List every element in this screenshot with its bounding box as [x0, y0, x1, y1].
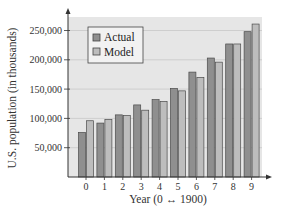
bar-model [123, 115, 130, 177]
x-axis-arrow-icon [266, 175, 272, 180]
x-tick-label: 2 [120, 181, 125, 192]
y-axis-title: U.S. population (in thousands) [6, 27, 19, 168]
bar-actual [97, 123, 104, 177]
y-tick-label: 100,000 [30, 113, 63, 124]
legend: Actual Model [88, 27, 143, 63]
bar-actual [189, 72, 196, 177]
bar-model [234, 44, 241, 177]
y-axis-arrow-icon [66, 8, 71, 14]
bar-actual [171, 89, 178, 177]
legend-label-actual: Actual [104, 31, 135, 43]
bar-model [160, 101, 167, 177]
x-tick-label: 9 [249, 181, 254, 192]
legend-swatch-actual [93, 34, 100, 41]
x-tick-label: 1 [102, 181, 107, 192]
bar-actual [115, 115, 122, 177]
x-tick-label: 7 [212, 181, 217, 192]
bar-model [252, 24, 259, 177]
y-tick-label: 200,000 [30, 54, 63, 65]
x-axis-title: Year (0 ↔ 1900) [129, 193, 207, 206]
x-tick-label: 3 [139, 181, 144, 192]
bar-model [197, 77, 204, 177]
bar-model [215, 62, 222, 177]
bar-actual [79, 132, 86, 177]
bar-chart: 50,000100,000150,000200,000250,000 01234… [0, 0, 283, 216]
bar-actual [152, 100, 159, 177]
y-tick-label: 150,000 [30, 84, 63, 95]
x-tick-label: 5 [176, 181, 181, 192]
bar-actual [244, 32, 251, 177]
y-tick-label: 250,000 [30, 25, 63, 36]
bar-actual [134, 105, 141, 177]
legend-label-model: Model [104, 46, 134, 58]
bar-model [87, 121, 94, 177]
bar-model [142, 110, 149, 177]
y-axis: 50,000100,000150,000200,000250,000 [30, 8, 71, 177]
y-tick-label: 50,000 [35, 142, 63, 153]
bar-actual [207, 58, 214, 177]
x-tick-label: 4 [157, 181, 162, 192]
x-tick-label: 8 [231, 181, 236, 192]
legend-swatch-model [93, 48, 100, 55]
bar-actual [226, 44, 233, 177]
bar-model [179, 91, 186, 177]
x-tick-label: 0 [84, 181, 89, 192]
x-axis: 0123456789 [68, 175, 272, 193]
x-tick-label: 6 [194, 181, 199, 192]
bar-model [105, 120, 112, 177]
